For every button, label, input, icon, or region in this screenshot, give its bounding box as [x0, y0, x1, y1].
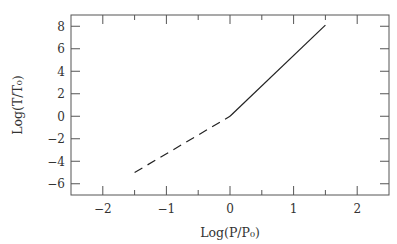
y-tick-label: 4 [57, 65, 65, 79]
y-tick-label: 0 [57, 110, 65, 124]
y-axis-label: Log(T/T₀) [10, 75, 25, 134]
tick-labels: −2−1012−6−4−202468 [47, 20, 361, 216]
solid-line [230, 25, 325, 116]
ticks [71, 15, 389, 195]
y-tick-label: −2 [47, 132, 65, 146]
y-tick-label: −6 [47, 177, 65, 191]
x-tick-label: 2 [353, 202, 361, 216]
x-tick-label: 0 [226, 202, 234, 216]
plot-frame [71, 15, 389, 195]
dashed-line [135, 116, 230, 172]
x-tick-label: −1 [158, 202, 176, 216]
x-tick-label: 1 [290, 202, 298, 216]
y-tick-label: 2 [57, 87, 65, 101]
data-series [135, 25, 326, 172]
chart: −2−1012−6−4−202468 Log(P/P₀) Log(T/T₀) [0, 0, 397, 244]
x-tick-label: −2 [94, 202, 112, 216]
y-tick-label: 6 [57, 42, 65, 56]
y-tick-label: 8 [57, 20, 65, 34]
y-tick-label: −4 [47, 155, 65, 169]
x-axis-label: Log(P/P₀) [200, 225, 260, 240]
